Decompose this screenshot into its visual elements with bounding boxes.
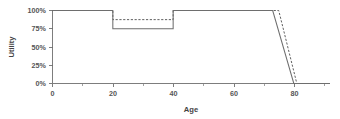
y-tick-label-100: 100% (28, 6, 47, 15)
y-tick-label-0: 0% (36, 79, 47, 88)
y-axis-ticks (49, 11, 53, 84)
x-tick-label-40: 40 (170, 89, 178, 98)
x-axis-title: Age (184, 105, 198, 114)
x-tick-label-80: 80 (291, 89, 299, 98)
chart-canvas: 100% 75% 50% 25% 0% 0 20 40 60 (0, 0, 340, 119)
y-axis-title: Utility (7, 36, 16, 58)
y-tick-label-75: 75% (32, 24, 47, 33)
x-tick-label-0: 0 (51, 89, 55, 98)
x-tick-label-60: 60 (230, 89, 238, 98)
y-axis-tick-labels: 100% 75% 50% 25% 0% (28, 6, 47, 88)
y-tick-label-25: 25% (32, 61, 47, 70)
series-line-dashed (53, 11, 331, 84)
utility-vs-age-chart: 100% 75% 50% 25% 0% 0 20 40 60 (0, 0, 340, 119)
y-tick-label-50: 50% (32, 43, 47, 52)
x-axis-tick-labels: 0 20 40 60 80 (51, 89, 299, 98)
series-line-solid (53, 11, 331, 84)
x-axis-ticks (53, 84, 295, 88)
x-tick-label-20: 20 (109, 89, 117, 98)
